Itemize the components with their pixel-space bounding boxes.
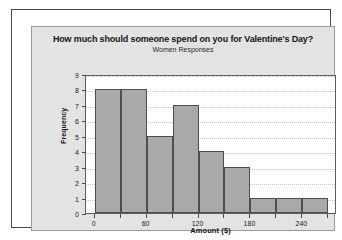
- y-axis-title: Frequency: [60, 108, 67, 144]
- y-axis-tick: [82, 106, 86, 107]
- y-axis-tick: [82, 183, 86, 184]
- y-axis-tick-label: 4: [75, 149, 79, 156]
- x-axis-tick: [275, 214, 276, 218]
- x-axis-tick: [301, 214, 302, 218]
- y-axis-tick: [82, 199, 86, 200]
- figure-outer-border: How much should someone spend on you for…: [11, 9, 331, 228]
- chart-subtitle: Women Responses: [32, 45, 334, 55]
- y-axis-tick-label: 9: [75, 72, 79, 79]
- y-axis-tick: [82, 75, 86, 76]
- histogram-bar: [173, 105, 199, 213]
- histogram-bar: [276, 198, 302, 213]
- y-axis-tick: [82, 214, 86, 215]
- y-axis-tick: [82, 121, 86, 122]
- y-axis-tick-label: 8: [75, 87, 79, 94]
- y-axis-tick-label: 2: [75, 180, 79, 187]
- y-axis-tick-label: 3: [75, 164, 79, 171]
- y-axis-tick-label: 1: [75, 195, 79, 202]
- y-axis-tick-label: 6: [75, 118, 79, 125]
- histogram-bar: [302, 198, 328, 213]
- y-axis-tick: [82, 168, 86, 169]
- x-axis-tick: [327, 214, 328, 218]
- histogram-bar: [199, 151, 225, 213]
- x-axis-title: Amount ($): [85, 226, 336, 235]
- x-axis-tick: [249, 214, 250, 218]
- y-axis-tick-label: 7: [75, 102, 79, 109]
- y-axis-tick: [82, 90, 86, 91]
- figure-panel: How much should someone spend on you for…: [31, 26, 335, 231]
- plot-area: [85, 75, 336, 214]
- y-axis-tick: [82, 152, 86, 153]
- histogram-bar: [250, 198, 276, 213]
- x-axis-tick: [223, 214, 224, 218]
- x-axis-tick: [146, 214, 147, 218]
- histogram-bar: [147, 136, 173, 213]
- histogram-bar: [121, 89, 147, 213]
- x-axis-tick: [120, 214, 121, 218]
- x-axis-tick: [172, 214, 173, 218]
- x-axis-tick: [94, 214, 95, 218]
- chart-title: How much should someone spend on you for…: [32, 34, 334, 45]
- histogram-bar: [224, 167, 250, 213]
- y-axis-tick-label: 0: [75, 211, 79, 218]
- bars-layer: [86, 76, 335, 213]
- y-axis-tick-label: 5: [75, 133, 79, 140]
- y-axis-tick: [82, 137, 86, 138]
- histogram-bar: [95, 89, 121, 213]
- histogram-figure: How much should someone spend on you for…: [0, 0, 342, 240]
- x-axis-tick: [198, 214, 199, 218]
- chart-title-block: How much should someone spend on you for…: [32, 34, 334, 55]
